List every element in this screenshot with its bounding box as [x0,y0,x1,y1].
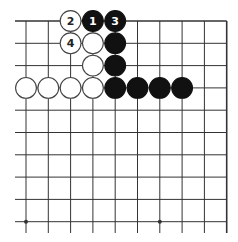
white-stone: 4 [60,33,81,54]
stone-disc [83,55,104,76]
black-stone [105,55,126,76]
black-stone: 1 [83,11,104,32]
star-point [158,220,162,224]
stone-disc [83,78,104,99]
stone-disc [16,78,37,99]
white-stone [83,78,104,99]
black-stone: 3 [105,11,126,32]
star-point [24,220,28,224]
stone-disc [105,55,126,76]
move-number-label: 2 [67,15,75,28]
black-stone [105,78,126,99]
move-number-label: 4 [67,37,75,50]
go-board: 2134 [0,0,238,242]
stone-disc [83,33,104,54]
stone-disc [149,78,170,99]
black-stone [105,33,126,54]
white-stone [83,33,104,54]
black-stone [127,78,148,99]
stone-disc [60,78,81,99]
stone-disc [172,78,193,99]
stone-disc [38,78,59,99]
stones: 2134 [16,11,193,99]
white-stone [38,78,59,99]
white-stone [83,55,104,76]
stone-disc [127,78,148,99]
black-stone [149,78,170,99]
white-stone: 2 [60,11,81,32]
board-grid [15,21,227,233]
white-stone [16,78,37,99]
stone-disc [105,33,126,54]
white-stone [60,78,81,99]
move-number-label: 3 [111,15,119,28]
move-number-label: 1 [89,15,97,28]
stone-disc [105,78,126,99]
black-stone [172,78,193,99]
